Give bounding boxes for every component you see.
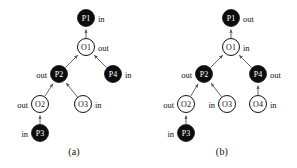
- node-label-o2: O2: [35, 100, 45, 109]
- node-label-o3: O3: [222, 100, 232, 109]
- node-label-o3: O3: [78, 100, 88, 109]
- node-p3[interactable]: P3in: [21, 125, 48, 142]
- node-label-o1: O1: [81, 43, 91, 52]
- port-label-o3: in: [208, 100, 215, 110]
- node-label-o2: O2: [181, 100, 191, 109]
- node-label-p3: P3: [182, 129, 190, 138]
- node-label-p4: P4: [254, 70, 262, 79]
- panel-a-graph: P1inO1outP2outP4inO2outO3inP3in: [0, 0, 148, 146]
- node-p2[interactable]: P2out: [181, 66, 212, 83]
- port-label-p2: out: [36, 70, 48, 80]
- port-label-p3: in: [167, 129, 174, 139]
- node-p4[interactable]: P4out: [250, 66, 282, 83]
- port-label-o2: out: [17, 100, 29, 110]
- port-label-p1: in: [98, 14, 105, 24]
- edge-p2-to-o1: [65, 55, 77, 67]
- node-label-p2: P2: [200, 70, 208, 79]
- node-label-p1: P1: [82, 14, 90, 23]
- node-o3[interactable]: O3in: [75, 96, 103, 113]
- port-label-o2: out: [163, 100, 175, 110]
- node-label-o1: O1: [226, 43, 236, 52]
- diagram-panel-b: P1outO1inP2outP4outO2outO3inO4inP3in (b): [148, 0, 296, 168]
- node-p1[interactable]: P1in: [78, 10, 106, 27]
- edge-o3-to-p2: [66, 83, 77, 97]
- figure-container: P1inO1outP2outP4inO2outO3inP3in (a) P1ou…: [0, 0, 297, 168]
- node-label-p3: P3: [36, 129, 44, 138]
- node-label-p2: P2: [55, 70, 63, 79]
- port-label-p3: in: [21, 129, 28, 139]
- node-p4[interactable]: P4in: [105, 66, 133, 83]
- port-label-o1: out: [98, 43, 110, 53]
- edge-o2-to-p2: [45, 84, 53, 97]
- panel-b-caption: (b): [148, 146, 296, 157]
- edge-p4-to-o1: [239, 55, 251, 67]
- node-label-p1: P1: [227, 14, 235, 23]
- node-o2[interactable]: O2out: [163, 96, 194, 113]
- edge-p4-to-o1: [94, 55, 106, 67]
- port-label-p4: in: [125, 70, 132, 80]
- panel-b-graph: P1outO1inP2outP4outO2outO3inO4inP3in: [148, 0, 297, 146]
- node-p3[interactable]: P3in: [167, 125, 194, 142]
- node-p1[interactable]: P1out: [223, 10, 255, 27]
- node-p2[interactable]: P2out: [36, 66, 67, 83]
- edge-o3-to-p2: [211, 83, 221, 97]
- node-label-p4: P4: [109, 70, 117, 79]
- diagram-panel-a: P1inO1outP2outP4inO2outO3inP3in (a): [0, 0, 148, 168]
- edge-o2-to-p2: [191, 84, 198, 96]
- node-o1[interactable]: O1in: [223, 39, 251, 56]
- node-o2[interactable]: O2out: [17, 96, 48, 113]
- node-o1[interactable]: O1out: [78, 39, 110, 56]
- panel-a-caption: (a): [0, 146, 148, 157]
- node-o4[interactable]: O4in: [250, 96, 278, 113]
- port-label-p4: out: [270, 70, 282, 80]
- port-label-p2: out: [181, 70, 193, 80]
- port-label-p1: out: [243, 14, 255, 24]
- port-label-o4: in: [270, 100, 277, 110]
- port-label-o3: in: [95, 100, 102, 110]
- node-label-o4: O4: [253, 100, 263, 109]
- port-label-o1: in: [243, 43, 250, 53]
- edge-p2-to-o1: [210, 55, 222, 67]
- node-o3[interactable]: O3in: [208, 96, 235, 113]
